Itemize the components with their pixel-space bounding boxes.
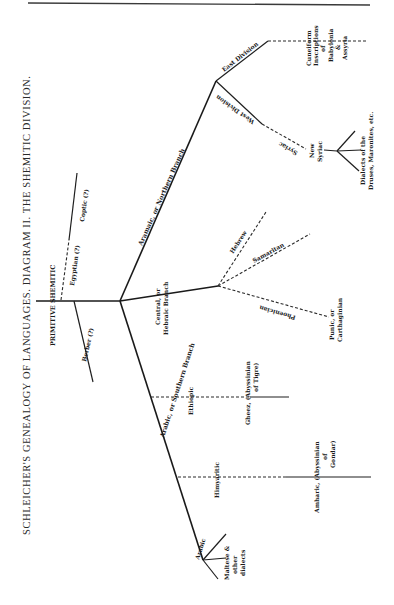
hebrew-label: Hebrew (228, 228, 248, 254)
new-syriac-label-1: New (308, 143, 315, 158)
diagram-title: SCHLEICHER'S GENEALOGY OF LANGUAGES. DIA… (21, 75, 32, 535)
arabic-southern-branch: Arabic, or Southern Branch Ethiopic Ghee… (120, 301, 371, 580)
amharic-label-2: of (321, 453, 328, 460)
dialect-fan-2 (337, 150, 361, 151)
new-syriac-label-2: Syriac (316, 141, 324, 162)
primitive-shemitic-label: PRIMITIVE SHEMITIC (49, 265, 57, 346)
central-hebraic-branch: Central, or Hebraic Branch Hebrew Samari… (120, 212, 344, 342)
east-division-label: East Division (220, 40, 259, 73)
ampersand-label: & (334, 44, 341, 50)
dialect-fan-3 (337, 151, 359, 171)
syriac-label: Syriac (277, 140, 299, 158)
coptic-line (69, 173, 77, 240)
maltese-label-2: other (231, 555, 238, 574)
aramaic-northern-branch: Aramaic, or Northern Branch East Divisio… (120, 25, 374, 301)
new-syriac-line (324, 150, 337, 151)
gheez-label-2: of Tigre) (252, 362, 260, 392)
samaritan-label: Samaritan (251, 241, 285, 264)
berber-label: Berber (?) (80, 327, 95, 362)
aramaic-label: Aramaic, or Northern Branch (136, 147, 187, 248)
punic-label-2: Carthaginian (336, 297, 344, 342)
himyaritic-label: Himyaritic (213, 462, 221, 498)
dialect-fan-1 (337, 131, 355, 151)
shemitic-genealogy-diagram: SCHLEICHER'S GENEALOGY OF LANGUAGES. DIA… (0, 0, 394, 605)
ethiopic-label: Ethiopic (187, 387, 195, 415)
amharic-label-1: Amharic, (Abyssinian (313, 441, 321, 514)
berber-branch: Berber (?) (74, 301, 95, 382)
hebrew-line (218, 212, 266, 286)
punic-label-1: Punic, or (328, 309, 335, 340)
maltese-label-3: dialects (239, 549, 246, 576)
coptic-label: Coptic (?) (78, 188, 91, 222)
root-node: PRIMITIVE SHEMITIC (36, 265, 120, 346)
of-label: of (319, 45, 326, 52)
central-label-1: Central, or (154, 288, 161, 325)
cuneiform-label: Cuneiform (305, 30, 312, 66)
egyptian-line (61, 240, 69, 300)
maltese-fan-3 (203, 560, 218, 579)
maltese-label-1: Maltese & (223, 545, 230, 580)
inscriptions-label: Inscriptions (312, 25, 320, 66)
phoenician-label: Phoenician (258, 305, 297, 322)
egyptian-label: Egyptian (?) (68, 244, 82, 286)
samaritan-line (218, 234, 310, 286)
gheez-label-1: Gheez, (Abyssinian (244, 361, 252, 425)
amharic-label-3: Gondar) (329, 440, 336, 468)
central-line (120, 286, 218, 301)
egyptian-coptic-branch: Egyptian (?) Coptic (?) (61, 173, 91, 300)
dialects-label-1: Dialects of the (359, 136, 366, 185)
dialects-label-2: Druses, Maronites, etc. (367, 112, 374, 190)
top-rule (28, 3, 370, 5)
central-label-2: Hebraic Branch (162, 281, 169, 335)
assyria-label: Assyria (341, 36, 349, 61)
east-division-line (216, 41, 268, 81)
